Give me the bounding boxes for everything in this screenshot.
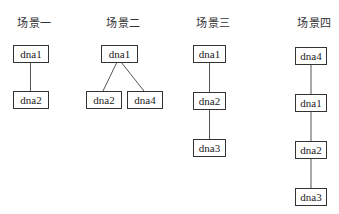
scene-2-title: 场景二 xyxy=(106,14,141,30)
s2-node-dna2: dna2 xyxy=(86,91,122,109)
s2-node-dna4: dna4 xyxy=(127,91,163,109)
edge-s2-dna1-dna2 xyxy=(103,62,117,91)
s3-node-dna2: dna2 xyxy=(193,92,226,110)
s3-node-dna3: dna3 xyxy=(193,139,226,157)
scene-3-title: 场景三 xyxy=(196,14,231,30)
s4-node-dna1: dna1 xyxy=(295,94,327,112)
s3-node-dna1: dna1 xyxy=(193,45,226,63)
edge-s2-dna1-dna4 xyxy=(121,62,144,91)
scene-diagram: 场景一 场景二 场景三 场景四 dna1 dna2 dna1 dna2 dna4… xyxy=(0,0,339,214)
s1-node-dna1: dna1 xyxy=(13,45,49,63)
s4-node-dna4: dna4 xyxy=(295,47,327,65)
s2-node-dna1: dna1 xyxy=(101,45,138,63)
scene-4-title: 场景四 xyxy=(297,14,332,30)
s1-node-dna2: dna2 xyxy=(13,91,49,109)
scene-1-title: 场景一 xyxy=(17,14,52,30)
s4-node-dna3: dna3 xyxy=(295,188,327,206)
s4-node-dna2: dna2 xyxy=(295,141,327,159)
edges-layer xyxy=(0,0,339,214)
